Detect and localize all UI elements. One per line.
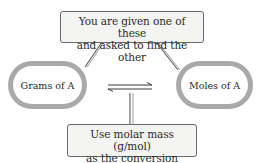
- grams-node: Grams of A: [8, 61, 87, 109]
- given-callout-line1: You are given one of these: [65, 15, 199, 39]
- grams-node-label: Grams of A: [13, 66, 82, 104]
- given-callout: You are given one of these and asked to …: [60, 11, 204, 43]
- given-callout-line2: and asked to find the other: [65, 39, 199, 63]
- equilibrium-arrows-icon: [108, 83, 152, 92]
- moles-node-label: Moles of A: [181, 66, 248, 104]
- conversion-callout: Use molar mass (g/mol) as the conversion…: [67, 124, 197, 157]
- conversion-callout-line1: Use molar mass (g/mol): [72, 128, 192, 152]
- conversion-callout-line2: as the conversion factor: [72, 152, 192, 163]
- bottom-callout-pointer: [130, 93, 133, 124]
- moles-node: Moles of A: [176, 61, 253, 109]
